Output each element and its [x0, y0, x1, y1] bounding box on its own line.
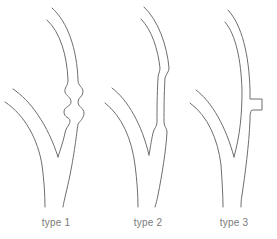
type1-left-inner-wall [13, 89, 58, 157]
panel-type2-vessel [105, 7, 169, 207]
panel-type3-vessel [190, 10, 262, 207]
type3-left-inner-wall [196, 90, 234, 157]
type2-upper-inner-wall [141, 19, 160, 155]
type1-left-outer-wall [5, 102, 45, 207]
panel-type1-vessel [5, 8, 84, 207]
type2-upper-outer-wall [144, 7, 169, 207]
type2-label: type 2 [118, 217, 178, 228]
vessel-bifurcation-diagram [0, 0, 277, 239]
type3-upper-outer-wall-with-stub [228, 10, 262, 207]
type1-label: type 1 [26, 217, 86, 228]
type3-label: type 3 [204, 217, 264, 228]
type3-left-outer-wall [190, 103, 223, 207]
type1-upper-outer-wall [52, 8, 84, 207]
type2-left-outer-wall [105, 103, 138, 207]
